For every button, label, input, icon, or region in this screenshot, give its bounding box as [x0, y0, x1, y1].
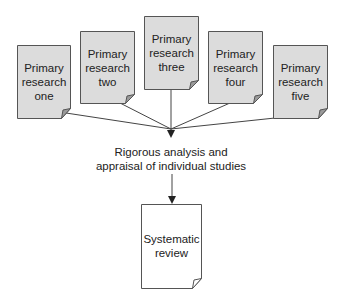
connector-five: [171, 118, 275, 129]
diagram-canvas: Primary research one Primary research tw…: [0, 0, 343, 303]
connector-four: [171, 103, 230, 129]
source-label-three: Primary research three: [144, 32, 199, 74]
source-label-one: Primary research one: [17, 61, 71, 103]
source-label-four: Primary research four: [208, 47, 263, 89]
source-label-two: Primary research two: [80, 47, 135, 89]
output-label: Systematic review: [141, 232, 202, 260]
source-label-five: Primary research five: [273, 61, 328, 103]
process-caption: Rigorous analysis and appraisal of indiv…: [60, 145, 282, 173]
